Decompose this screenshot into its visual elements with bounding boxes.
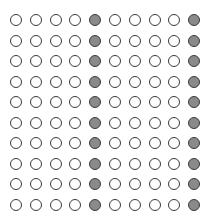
empty-circle-icon [129,158,141,170]
empty-circle-icon [69,96,81,108]
empty-circle-icon [168,178,180,190]
empty-circle-icon [69,14,81,26]
empty-circle-icon [50,96,62,108]
empty-circle-icon [149,137,161,149]
empty-circle-icon [69,158,81,170]
empty-circle-icon [168,96,180,108]
filled-circle-icon [89,117,101,129]
empty-circle-icon [149,14,161,26]
empty-circle-icon [30,76,42,88]
filled-circle-icon [89,35,101,47]
empty-circle-icon [168,158,180,170]
empty-circle-icon [168,35,180,47]
empty-circle-icon [109,158,121,170]
empty-circle-icon [50,158,62,170]
empty-circle-icon [69,117,81,129]
empty-circle-icon [109,178,121,190]
empty-circle-icon [129,199,141,211]
empty-circle-icon [168,199,180,211]
empty-circle-icon [50,55,62,67]
empty-circle-icon [129,178,141,190]
filled-circle-icon [89,158,101,170]
empty-circle-icon [69,35,81,47]
empty-circle-icon [129,55,141,67]
empty-circle-icon [149,158,161,170]
empty-circle-icon [10,14,22,26]
empty-circle-icon [168,76,180,88]
empty-circle-icon [168,117,180,129]
filled-circle-icon [188,76,200,88]
empty-circle-icon [129,137,141,149]
filled-circle-icon [188,158,200,170]
empty-circle-icon [69,55,81,67]
empty-circle-icon [50,14,62,26]
empty-circle-icon [109,117,121,129]
filled-circle-icon [188,96,200,108]
empty-circle-icon [30,55,42,67]
empty-circle-icon [30,178,42,190]
empty-circle-icon [149,96,161,108]
empty-circle-icon [50,76,62,88]
filled-circle-icon [188,35,200,47]
empty-circle-icon [149,35,161,47]
empty-circle-icon [50,178,62,190]
empty-circle-icon [129,76,141,88]
filled-circle-icon [89,14,101,26]
filled-circle-icon [89,199,101,211]
empty-circle-icon [69,137,81,149]
empty-circle-icon [109,137,121,149]
empty-circle-icon [149,55,161,67]
empty-circle-icon [10,137,22,149]
empty-circle-icon [109,96,121,108]
empty-circle-icon [10,158,22,170]
filled-circle-icon [188,178,200,190]
empty-circle-icon [149,178,161,190]
empty-circle-icon [149,117,161,129]
empty-circle-icon [50,117,62,129]
empty-circle-icon [129,117,141,129]
empty-circle-icon [109,76,121,88]
empty-circle-icon [149,76,161,88]
empty-circle-icon [30,158,42,170]
empty-circle-icon [109,55,121,67]
filled-circle-icon [89,178,101,190]
empty-circle-icon [10,178,22,190]
empty-circle-icon [69,199,81,211]
empty-circle-icon [30,117,42,129]
filled-circle-icon [188,117,200,129]
empty-circle-icon [109,199,121,211]
empty-circle-icon [10,117,22,129]
empty-circle-icon [149,199,161,211]
empty-circle-icon [109,14,121,26]
empty-circle-icon [30,199,42,211]
empty-circle-icon [168,137,180,149]
filled-circle-icon [89,76,101,88]
filled-circle-icon [188,199,200,211]
empty-circle-icon [10,96,22,108]
empty-circle-icon [10,35,22,47]
empty-circle-icon [10,76,22,88]
empty-circle-icon [168,55,180,67]
filled-circle-icon [89,55,101,67]
filled-circle-icon [89,96,101,108]
empty-circle-icon [30,137,42,149]
empty-circle-icon [10,55,22,67]
empty-circle-icon [69,76,81,88]
filled-circle-icon [188,137,200,149]
empty-circle-icon [10,199,22,211]
empty-circle-icon [129,96,141,108]
empty-circle-icon [30,96,42,108]
dot-grid [0,0,212,222]
empty-circle-icon [50,35,62,47]
empty-circle-icon [129,14,141,26]
empty-circle-icon [69,178,81,190]
empty-circle-icon [50,199,62,211]
empty-circle-icon [30,14,42,26]
empty-circle-icon [50,137,62,149]
filled-circle-icon [188,14,200,26]
empty-circle-icon [109,35,121,47]
filled-circle-icon [89,137,101,149]
empty-circle-icon [30,35,42,47]
empty-circle-icon [129,35,141,47]
empty-circle-icon [168,14,180,26]
